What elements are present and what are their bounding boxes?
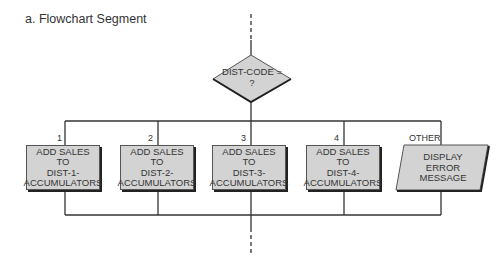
error-message-text: DISPLAY ERROR MESSAGE <box>400 152 486 184</box>
branch-label-1: 1 <box>57 133 62 143</box>
branch-label-4: 4 <box>334 133 339 143</box>
process-box-dist-2: ADD SALES TO DIST-2- ACCUMULATORS <box>120 145 194 190</box>
connector-lines <box>0 0 504 262</box>
process-box-dist-4: ADD SALES TO DIST-4- ACCUMULATORS <box>306 145 380 190</box>
process-box-dist-1: ADD SALES TO DIST-1- ACCUMULATORS <box>26 145 100 190</box>
branch-label-other: OTHER <box>409 133 441 143</box>
process-box-dist-3: ADD SALES TO DIST-3- ACCUMULATORS <box>212 145 286 190</box>
branch-label-3: 3 <box>241 133 246 143</box>
branch-label-2: 2 <box>148 133 153 143</box>
decision-text: DIST-CODE = ? <box>213 66 291 88</box>
